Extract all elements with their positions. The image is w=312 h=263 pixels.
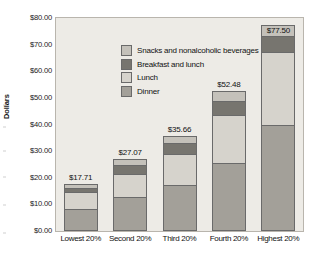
y-tick-label: $40.00 — [8, 120, 52, 129]
legend: Snacks and nonalcoholic beveragesBreakfa… — [121, 45, 259, 97]
bar-segment[interactable] — [64, 209, 98, 231]
legend-item[interactable]: Snacks and nonalcoholic beverages — [121, 45, 259, 56]
bar-segment[interactable] — [113, 165, 147, 173]
x-axis-tick-labels: Lowest 20%Second 20%Third 20%Fourth 20%H… — [55, 234, 304, 252]
bar-segment[interactable] — [261, 36, 295, 52]
x-tick-label: Lowest 20% — [60, 234, 101, 243]
bar-segment[interactable] — [113, 197, 147, 231]
bar-total-label: $35.66 — [168, 125, 191, 134]
legend-item[interactable]: Dinner — [121, 86, 259, 97]
bar-segment[interactable] — [163, 154, 197, 184]
y-tick-label: $20.00 — [8, 173, 52, 182]
legend-label: Dinner — [137, 87, 159, 96]
bar-segment[interactable] — [261, 52, 295, 125]
bar-segment[interactable] — [64, 192, 98, 209]
bar-segment[interactable] — [163, 136, 197, 143]
legend-label: Lunch — [137, 73, 158, 82]
bar-total-label: $27.07 — [118, 148, 141, 157]
bar-segment[interactable] — [163, 143, 197, 154]
legend-swatch-icon — [121, 45, 132, 56]
y-axis-tick-labels: $0.00$10.00$20.00$30.00$40.00$50.00$60.0… — [0, 0, 52, 263]
x-tick-label: Third 20% — [163, 234, 197, 243]
legend-swatch-icon — [121, 86, 132, 97]
stacked-bar-chart: Dollars $0.00$10.00$20.00$30.00$40.00$50… — [0, 0, 312, 263]
bar-segment[interactable] — [212, 101, 246, 115]
legend-label: Breakfast and lunch — [137, 60, 204, 69]
legend-swatch-icon — [121, 59, 132, 70]
y-tick-label: $80.00 — [8, 13, 52, 22]
plot-area: $17.71$27.07$35.66$52.48$77.50 Snacks an… — [55, 17, 304, 232]
bar-segment[interactable] — [113, 174, 147, 198]
x-tick-label: Second 20% — [109, 234, 151, 243]
bar-stack[interactable]: $77.50 — [261, 25, 295, 231]
y-tick-label: $60.00 — [8, 66, 52, 75]
x-tick-label: Highest 20% — [257, 234, 299, 243]
x-tick-label: Fourth 20% — [210, 234, 248, 243]
legend-swatch-icon — [121, 72, 132, 83]
bar-segment[interactable] — [261, 125, 295, 231]
bar-segment[interactable] — [212, 163, 246, 231]
bar-total-label: $77.50 — [267, 26, 290, 35]
legend-item[interactable]: Breakfast and lunch — [121, 59, 259, 70]
bar-stack[interactable]: $17.71 — [64, 184, 98, 231]
bar-segment[interactable] — [163, 185, 197, 231]
legend-label: Snacks and nonalcoholic beverages — [137, 46, 259, 55]
bar-segment[interactable] — [212, 115, 246, 163]
bar-stack[interactable]: $27.07 — [113, 159, 147, 231]
y-tick-label: $70.00 — [8, 40, 52, 49]
bar-total-label: $17.71 — [69, 173, 92, 182]
y-tick-label: $50.00 — [8, 93, 52, 102]
legend-item[interactable]: Lunch — [121, 72, 259, 83]
y-tick-label: $10.00 — [8, 199, 52, 208]
bar-stack[interactable]: $35.66 — [163, 136, 197, 231]
y-tick-label: $0.00 — [8, 226, 52, 235]
y-tick-label: $30.00 — [8, 146, 52, 155]
bar-stack[interactable]: $52.48 — [212, 91, 246, 231]
